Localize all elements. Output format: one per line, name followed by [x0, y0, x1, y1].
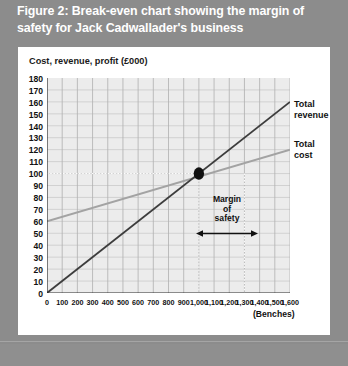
x-tick-label: 800: [163, 299, 175, 306]
x-tick-label: 200: [71, 299, 83, 306]
chart-panel: Cost, revenue, profit (£000): [18, 47, 330, 335]
x-tick-label: 900: [178, 299, 190, 306]
series-label-total-revenue-line1: Total: [294, 99, 329, 110]
figure-container: Figure 2: Break-even chart showing the m…: [0, 0, 348, 366]
x-tick-label: 600: [132, 299, 144, 306]
margin-of-safety-line3: safety: [196, 214, 258, 224]
x-tick-label: 300: [87, 299, 99, 306]
series-label-total-cost-line2: cost: [294, 150, 315, 161]
figure-title: Figure 2: Break-even chart showing the m…: [17, 3, 333, 36]
series-label-total-revenue: Total revenue: [294, 99, 329, 120]
x-axis-tick-labels: 0 100 200 300 400 500 600 700 800 900 1,…: [18, 47, 330, 335]
series-label-total-cost: Total cost: [294, 139, 315, 160]
footer-divider: [0, 341, 348, 342]
x-tick-label: 700: [147, 299, 159, 306]
series-label-total-cost-line1: Total: [294, 139, 315, 150]
x-tick-label: 400: [102, 299, 114, 306]
series-label-total-revenue-line2: revenue: [294, 110, 329, 121]
margin-of-safety-annotation: Margin of safety: [196, 195, 258, 224]
margin-of-safety-double-arrow-icon: [196, 229, 258, 238]
x-tick-label: 500: [117, 299, 129, 306]
x-tick-label: 0: [45, 299, 49, 306]
footer-band: [0, 344, 348, 366]
x-axis-unit-label: (Benches): [253, 309, 295, 319]
x-tick-label: 1,600: [281, 299, 299, 306]
x-tick-label: 100: [56, 299, 68, 306]
